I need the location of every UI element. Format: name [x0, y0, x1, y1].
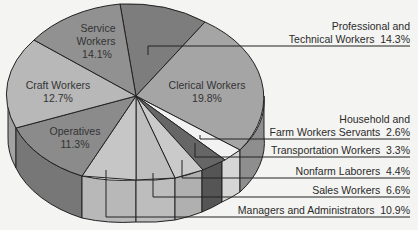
label-professional-1: Professional and [332, 20, 410, 32]
label-household-1: Household and [339, 113, 410, 125]
label-professional-2: Technical Workers 14.3% [289, 33, 410, 45]
label-clerical-val: 19.8% [192, 92, 222, 104]
slice-side-managers-2 [136, 178, 175, 222]
label-clerical-1: Clerical Workers [169, 79, 246, 91]
label-service-2: Workers [77, 35, 116, 47]
label-sales: Sales Workers 6.6% [312, 184, 410, 196]
label-household-2: Farm Workers Servants 2.6% [270, 126, 410, 138]
label-managers: Managers and Administrators 10.9% [238, 204, 410, 216]
label-service-1: Service [80, 22, 115, 34]
label-transportation: Transportation Workers 3.3% [271, 144, 410, 156]
label-operatives-1: Operatives [50, 125, 101, 137]
pie-chart: Service Workers 14.1% Craft Workers 12.7… [0, 0, 418, 230]
label-operatives-val: 11.3% [61, 138, 90, 150]
slice-side-managers [82, 176, 136, 222]
label-craft-1: Craft Workers [26, 79, 91, 91]
label-craft-val: 12.7% [43, 92, 73, 104]
label-service-val: 14.1% [82, 48, 112, 60]
label-nonfarm: Nonfarm Laborers 4.4% [296, 165, 410, 177]
